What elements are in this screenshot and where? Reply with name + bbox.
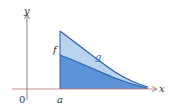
x-axis-label: x (159, 83, 165, 94)
area-between-curves-diagram: y x 0 a f g (0, 0, 174, 109)
origin-label: 0 (19, 94, 25, 105)
a-label: a (57, 94, 63, 105)
f-label: f (52, 44, 59, 55)
y-axis-label: y (23, 5, 30, 16)
g-label: g (95, 51, 101, 62)
